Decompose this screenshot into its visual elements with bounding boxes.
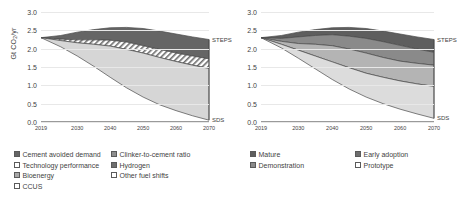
legend-item[interactable]: Technology performance [14,161,101,170]
x-axis-tick-label: 2050 [137,125,149,131]
gridline [261,12,434,13]
legend-item-label: Prototype [364,161,394,170]
x-axis-tick-label: 2050 [360,125,372,131]
x-axis-tick-label: 2060 [170,125,182,131]
legend-item[interactable]: Hydrogen [111,161,190,170]
legend-column: MatureDemonstration [250,150,304,171]
gridline [41,67,209,68]
right-plot-area: 0.00.51.01.52.02.53.02019203020402050206… [261,12,434,122]
gridline [261,30,434,31]
legend-item[interactable]: Clinker-to-cement ratio [111,150,190,159]
y-axis-tick-label: 2.5 [27,27,37,34]
x-axis-tick-label: 2070 [428,125,440,131]
gridline [41,30,209,31]
gridline [261,67,434,68]
scenario-label-steps: STEPS [437,37,457,43]
legend-swatch-icon [355,151,361,157]
left-chart-panel: Gt CO2/yr 0.00.51.01.52.02.53.0201920302… [0,0,225,148]
legend-item[interactable]: Prototype [355,161,408,170]
legend-swatch-icon [111,172,117,178]
legend-item[interactable]: Mature [250,150,304,159]
gridline [261,122,434,123]
legend-swatch-icon [111,151,117,157]
legend-item-label: Cement avoided demand [23,150,101,159]
legend-item-label: CCUS [23,182,43,191]
y-axis-tick-label: 2.0 [27,45,37,52]
right-chart-panel: 0.00.51.01.52.02.53.02019203020402050206… [225,0,450,148]
x-axis-tick-label: 2040 [326,125,338,131]
x-axis-line [41,121,209,122]
legend-item[interactable]: Demonstration [250,161,304,170]
legend-item-label: Demonstration [259,161,305,170]
legend-swatch-icon [14,172,20,178]
chart-legend: Cement avoided demandTechnology performa… [0,150,450,200]
legend-item-label: Mature [259,150,281,159]
y-axis-tick-label: 2.5 [247,27,257,34]
x-axis-line [261,121,434,122]
legend-item[interactable]: Early adoption [355,150,408,159]
y-axis-tick-label: 3.0 [247,9,257,16]
legend-swatch-icon [14,183,20,189]
gridline [261,85,434,86]
y-axis-tick-label: 1.0 [27,82,37,89]
legend-item[interactable]: Bioenergy [14,171,101,180]
x-axis-tick-label: 2019 [255,125,267,131]
gridline [41,104,209,105]
y-axis-tick-label: 0.5 [247,100,257,107]
scenario-label-sds: SDS [437,115,449,121]
gridline [261,104,434,105]
y-axis-tick-label: 3.0 [27,9,37,16]
x-axis-tick-label: 2070 [203,125,215,131]
x-axis-tick-label: 2030 [292,125,304,131]
y-axis-tick-label: 0.5 [27,100,37,107]
legend-item[interactable]: Cement avoided demand [14,150,101,159]
legend-column: Early adoptionPrototype [355,150,408,171]
y-axis-label: Gt CO2/yr [10,9,17,79]
legend-item[interactable]: Other fuel shifts [111,171,190,180]
y-axis-tick-label: 1.5 [247,64,257,71]
legend-swatch-icon [250,162,256,168]
gridline [41,49,209,50]
x-axis-tick-label: 2019 [35,125,47,131]
legend-column: Cement avoided demandTechnology performa… [14,150,101,192]
gridline [41,85,209,86]
legend-item-label: Bioenergy [23,171,55,180]
legend-swatch-icon [111,162,117,168]
legend-swatch-icon [355,162,361,168]
y-axis-tick-label: 2.0 [247,45,257,52]
x-axis-tick-label: 2040 [104,125,116,131]
legend-item-label: Other fuel shifts [120,171,169,180]
legend-item-label: Hydrogen [120,161,150,170]
gridline [41,12,209,13]
x-axis-tick-label: 2030 [71,125,83,131]
y-axis-tick-label: 1.0 [247,82,257,89]
scenario-label-sds: SDS [212,117,224,123]
legend-swatch-icon [250,151,256,157]
legend-swatch-icon [14,162,20,168]
left-plot-area: 0.00.51.01.52.02.53.02019203020402050206… [41,12,209,122]
gridline [41,122,209,123]
legend-item-label: Early adoption [364,150,409,159]
gridline [261,49,434,50]
legend-item-label: Technology performance [23,161,100,170]
y-axis-tick-label: 1.5 [27,64,37,71]
legend-column: Clinker-to-cement ratioHydrogenOther fue… [111,150,190,182]
legend-swatch-icon [14,151,20,157]
legend-item-label: Clinker-to-cement ratio [120,150,191,159]
legend-item[interactable]: CCUS [14,182,101,191]
x-axis-tick-label: 2060 [394,125,406,131]
